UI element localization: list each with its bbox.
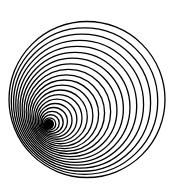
center-dark-spot bbox=[44, 119, 54, 129]
nested-circles-illusion bbox=[0, 0, 176, 194]
